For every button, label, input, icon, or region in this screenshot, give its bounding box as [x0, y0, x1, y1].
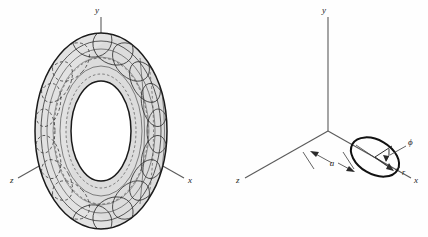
right-axis-label-z: z — [235, 175, 240, 185]
torus-body — [30, 17, 180, 237]
label-angle-phi: ϕ — [408, 137, 413, 147]
right-axis-label-y: y — [321, 5, 326, 15]
torus-parameters-panel: y z x a r ϕ — [214, 0, 428, 237]
left-axis-label-x: x — [187, 175, 192, 185]
dimension-arrowhead-left — [310, 151, 319, 157]
figure-canvas: y z x y z — [0, 0, 428, 237]
dimension-tick-origin — [303, 152, 314, 169]
right-axis-label-x: x — [413, 175, 418, 185]
left-axis-label-z: z — [9, 175, 14, 185]
label-tube-radius: r — [402, 168, 406, 177]
torus-surface-panel: y z x — [0, 0, 214, 237]
label-center-distance: a — [330, 158, 335, 168]
left-axis-label-y: y — [94, 5, 99, 15]
